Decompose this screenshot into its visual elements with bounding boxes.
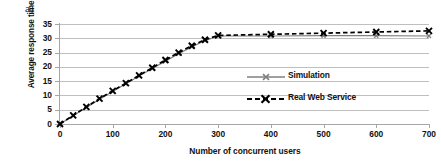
legend-item-simulation: Simulation [247, 64, 397, 86]
y-axis-tick [55, 110, 59, 111]
x-axis-tick [324, 124, 325, 128]
y-axis-tick-label: 30 [26, 34, 52, 43]
y-axis-tick-label: 20 [26, 62, 52, 71]
y-axis-tick [55, 67, 59, 68]
y-axis-tick-label: 25 [26, 48, 52, 57]
y-axis-tick [55, 95, 59, 96]
legend-item-real-web-service: Real Web Service [247, 86, 397, 108]
y-axis-tick-label: 35 [26, 20, 52, 29]
legend-key-simulation [247, 69, 285, 81]
x-axis-tick [218, 124, 219, 128]
x-axis-tick-label: 200 [145, 130, 185, 139]
y-axis-tick-label: 15 [26, 77, 52, 86]
legend-label-simulation: Simulation [288, 70, 330, 80]
figure-panel: a) Average response time [s] Number of c… [0, 0, 441, 167]
chart-legend: Simulation Real Web Service [247, 64, 397, 108]
y-axis-tick-label: 5 [26, 105, 52, 114]
data-point [70, 112, 76, 118]
y-axis-tick [55, 81, 59, 82]
x-axis-tick [271, 124, 272, 128]
legend-key-real-web-service [247, 91, 285, 103]
legend-label-real-web-service: Real Web Service [288, 92, 356, 102]
x-axis-tick [376, 124, 377, 128]
x-axis-tick-label: 100 [93, 130, 133, 139]
x-axis-tick-label: 0 [40, 130, 80, 139]
y-axis-tick [55, 38, 59, 39]
x-axis-tick-label: 500 [304, 130, 344, 139]
x-axis-tick [429, 124, 430, 128]
y-axis-tick [55, 24, 59, 25]
y-axis-tick-label: 10 [26, 91, 52, 100]
x-axis-title: Number of concurrent users [60, 146, 430, 156]
x-axis-tick [165, 124, 166, 128]
x-axis-tick-label: 600 [356, 130, 396, 139]
x-axis-tick-label: 400 [251, 130, 291, 139]
data-point [83, 104, 89, 110]
y-axis-tick [55, 53, 59, 54]
x-axis-tick [113, 124, 114, 128]
x-axis-line [59, 124, 430, 125]
x-axis-tick-label: 300 [198, 130, 238, 139]
y-axis-tick-label: 0 [26, 120, 52, 129]
x-axis-tick-label: 700 [409, 130, 441, 139]
